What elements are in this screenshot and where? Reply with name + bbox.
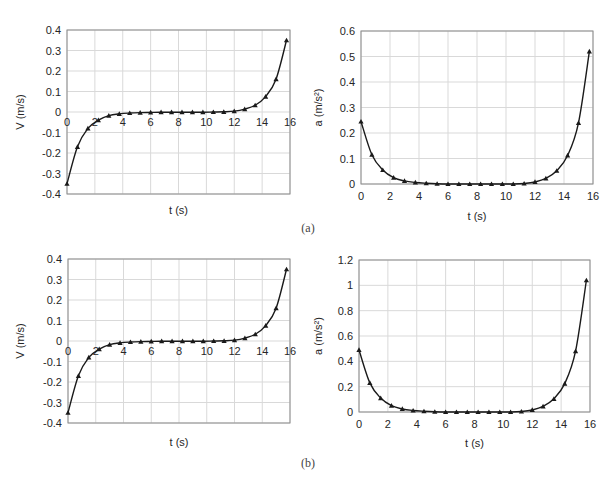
svg-text:2: 2 bbox=[387, 190, 393, 202]
chart-a-velocity: -0.4-0.3-0.2-0.100.10.20.30.402468101214… bbox=[14, 24, 296, 216]
svg-text:-0.2: -0.2 bbox=[43, 376, 62, 388]
svg-text:16: 16 bbox=[587, 190, 599, 202]
gridlines bbox=[359, 260, 590, 412]
svg-text:0: 0 bbox=[349, 178, 355, 190]
svg-text:0.3: 0.3 bbox=[340, 102, 355, 114]
figure: -0.4-0.3-0.2-0.100.10.20.30.402468101214… bbox=[0, 0, 615, 488]
triangle-marker-icon bbox=[358, 119, 363, 124]
svg-text:14: 14 bbox=[256, 116, 268, 128]
svg-text:0.1: 0.1 bbox=[340, 153, 355, 165]
triangle-marker-icon bbox=[284, 267, 289, 272]
svg-text:0.2: 0.2 bbox=[47, 294, 62, 306]
svg-text:2: 2 bbox=[385, 418, 391, 430]
svg-text:16: 16 bbox=[284, 345, 296, 357]
svg-text:0: 0 bbox=[55, 106, 61, 118]
svg-text:8: 8 bbox=[474, 190, 480, 202]
svg-text:14: 14 bbox=[256, 345, 268, 357]
svg-text:0.2: 0.2 bbox=[340, 127, 355, 139]
chart-a-acceleration: 00.10.20.30.40.50.60246810121416t (s)a (… bbox=[312, 25, 599, 222]
svg-text:10: 10 bbox=[200, 116, 212, 128]
triangle-marker-icon bbox=[356, 347, 361, 352]
svg-text:-0.4: -0.4 bbox=[43, 417, 62, 429]
svg-text:0.2: 0.2 bbox=[46, 65, 61, 77]
svg-text:10: 10 bbox=[201, 345, 213, 357]
svg-text:8: 8 bbox=[176, 345, 182, 357]
triangle-marker-icon bbox=[76, 373, 81, 378]
svg-text:0.1: 0.1 bbox=[46, 86, 61, 98]
triangle-marker-icon bbox=[64, 181, 69, 186]
svg-text:12: 12 bbox=[228, 116, 240, 128]
svg-text:0.6: 0.6 bbox=[340, 25, 355, 37]
svg-text:4: 4 bbox=[120, 345, 126, 357]
svg-text:0.2: 0.2 bbox=[338, 381, 353, 393]
svg-text:-0.1: -0.1 bbox=[42, 127, 61, 139]
y-tick-labels: -0.4-0.3-0.2-0.100.10.20.30.4 bbox=[42, 24, 61, 200]
x-axis-label: t (s) bbox=[468, 210, 487, 222]
svg-text:1.2: 1.2 bbox=[338, 254, 353, 266]
svg-text:6: 6 bbox=[148, 116, 154, 128]
svg-text:0.4: 0.4 bbox=[338, 355, 353, 367]
svg-text:0: 0 bbox=[65, 345, 71, 357]
triangle-marker-icon bbox=[75, 144, 80, 149]
y-tick-labels: 00.20.40.60.811.2 bbox=[338, 254, 353, 418]
triangle-marker-icon bbox=[565, 153, 570, 158]
x-tick-labels: 0246810121416 bbox=[358, 190, 599, 202]
svg-text:4: 4 bbox=[416, 190, 422, 202]
svg-text:6: 6 bbox=[445, 190, 451, 202]
y-axis-label: V (m/s) bbox=[14, 323, 26, 358]
svg-text:8: 8 bbox=[175, 116, 181, 128]
svg-text:0.8: 0.8 bbox=[338, 305, 353, 317]
triangle-marker-icon bbox=[284, 38, 289, 43]
triangle-marker-icon bbox=[274, 306, 279, 311]
y-tick-labels: 00.10.20.30.40.50.6 bbox=[340, 25, 355, 190]
series-line bbox=[359, 280, 586, 412]
svg-text:0: 0 bbox=[356, 418, 362, 430]
triangle-marker-icon bbox=[576, 120, 581, 125]
triangle-marker-icon bbox=[369, 152, 374, 157]
svg-text:-0.2: -0.2 bbox=[42, 147, 61, 159]
svg-text:14: 14 bbox=[558, 190, 570, 202]
y-axis-label: a (m/s²) bbox=[312, 89, 324, 127]
chart-b-velocity: -0.4-0.3-0.2-0.100.10.20.30.402468101214… bbox=[14, 253, 296, 448]
svg-text:12: 12 bbox=[529, 190, 541, 202]
svg-text:14: 14 bbox=[555, 418, 567, 430]
x-axis-label: t (s) bbox=[465, 437, 484, 449]
triangle-markers bbox=[358, 49, 592, 186]
svg-text:10: 10 bbox=[500, 190, 512, 202]
svg-text:0.4: 0.4 bbox=[46, 24, 61, 36]
svg-text:-0.3: -0.3 bbox=[43, 397, 62, 409]
charts-canvas: -0.4-0.3-0.2-0.100.10.20.30.402468101214… bbox=[0, 0, 615, 488]
y-axis-label: V (m/s) bbox=[14, 94, 26, 129]
svg-text:12: 12 bbox=[228, 345, 240, 357]
svg-text:0.6: 0.6 bbox=[338, 330, 353, 342]
svg-text:0: 0 bbox=[64, 116, 70, 128]
caption-b: (b) bbox=[301, 456, 315, 471]
svg-text:4: 4 bbox=[120, 116, 126, 128]
svg-text:16: 16 bbox=[584, 418, 596, 430]
svg-text:1: 1 bbox=[347, 279, 353, 291]
triangle-marker-icon bbox=[367, 380, 372, 385]
caption-a: (a) bbox=[301, 221, 314, 236]
x-tick-labels: 0246810121416 bbox=[356, 418, 596, 430]
y-axis-label: a (m/s²) bbox=[312, 317, 324, 355]
svg-text:-0.1: -0.1 bbox=[43, 356, 62, 368]
svg-text:0.4: 0.4 bbox=[340, 76, 355, 88]
svg-text:0.3: 0.3 bbox=[47, 274, 62, 286]
gridlines bbox=[361, 31, 593, 184]
svg-text:0.4: 0.4 bbox=[47, 253, 62, 265]
svg-text:0.1: 0.1 bbox=[47, 315, 62, 327]
triangle-marker-icon bbox=[562, 381, 567, 386]
triangle-marker-icon bbox=[587, 49, 592, 54]
svg-text:0: 0 bbox=[56, 335, 62, 347]
svg-text:-0.3: -0.3 bbox=[42, 168, 61, 180]
x-axis-label: t (s) bbox=[169, 204, 188, 216]
svg-text:0.5: 0.5 bbox=[340, 51, 355, 63]
svg-text:16: 16 bbox=[284, 116, 296, 128]
triangle-marker-icon bbox=[573, 349, 578, 354]
svg-text:10: 10 bbox=[497, 418, 509, 430]
triangle-marker-icon bbox=[584, 278, 589, 283]
series-line bbox=[361, 51, 589, 184]
triangle-marker-icon bbox=[65, 410, 70, 415]
svg-text:0.3: 0.3 bbox=[46, 45, 61, 57]
triangle-markers bbox=[356, 278, 589, 414]
